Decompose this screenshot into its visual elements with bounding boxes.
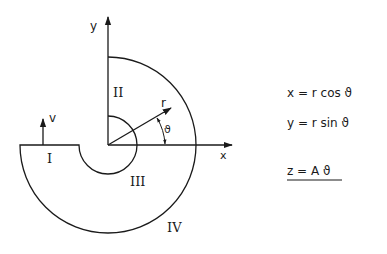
- region-label-I: I: [47, 151, 52, 166]
- region-label-IV: IV: [167, 220, 182, 235]
- x-axis-label: x: [220, 149, 227, 162]
- angle-label: ϑ: [164, 123, 171, 136]
- diagram-canvas: y x r ϑ v I II III IV x = r cos ϑ y = r …: [0, 0, 387, 254]
- equation-z: z = A ϑ: [287, 164, 330, 178]
- equation-y: y = r sin ϑ: [287, 116, 349, 130]
- equation-x: x = r cos ϑ: [287, 86, 352, 100]
- y-axis-label: y: [90, 19, 97, 33]
- radial-label: r: [161, 96, 166, 110]
- region-label-III: III: [130, 174, 145, 189]
- velocity-label: v: [49, 111, 56, 125]
- region-label-II: II: [113, 85, 123, 100]
